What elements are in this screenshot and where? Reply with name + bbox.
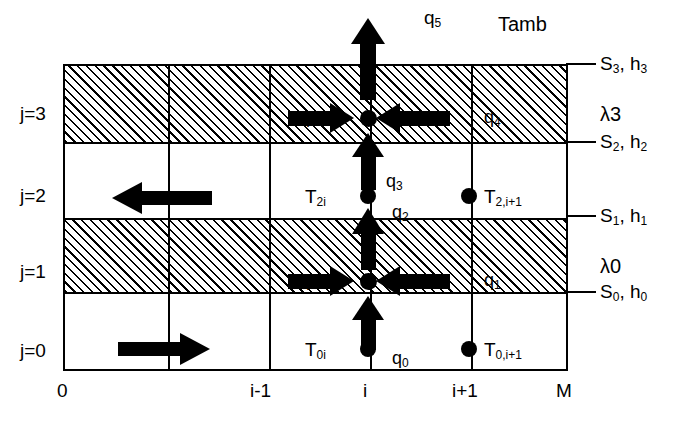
column-label-0: 0 xyxy=(57,381,68,400)
node-dot-upper xyxy=(360,110,377,127)
node-dot-lower xyxy=(360,273,377,290)
surface-label-s1: S1, h1 xyxy=(600,206,647,225)
temperature-label-t0ip1: T0,i+1 xyxy=(484,340,522,359)
column-label-ip1: i+1 xyxy=(452,381,478,400)
flux-label-q2: q2 xyxy=(392,203,409,221)
surface-label-s2: S2, h2 xyxy=(600,132,647,151)
conductivity-label-lambda0: λ0 xyxy=(600,256,621,276)
node-dot-t0i xyxy=(360,341,376,357)
column-label-i: i xyxy=(363,381,367,400)
column-label-im1: i-1 xyxy=(250,381,271,400)
row-label-j1: j=1 xyxy=(20,262,46,281)
leader-line-s1 xyxy=(566,215,596,217)
grid-line-col-ip1 xyxy=(471,66,473,369)
ambient-temperature-label: Tamb xyxy=(498,14,547,34)
flux-label-q4-right: q4 xyxy=(484,108,501,126)
flux-label-q1-right: q1 xyxy=(484,271,501,289)
surface-label-s3: S3, h3 xyxy=(600,54,647,73)
column-label-M: M xyxy=(556,381,572,400)
surface-label-s0: S0, h0 xyxy=(600,282,647,301)
grid-line-col-a xyxy=(168,66,170,369)
flux-label-q5: q5 xyxy=(424,8,441,27)
leader-line-s3 xyxy=(566,63,596,65)
temperature-label-t2ip1: T2,i+1 xyxy=(484,187,522,206)
node-dot-t2i xyxy=(360,188,376,204)
node-dot-t0ip1 xyxy=(461,341,477,357)
row-label-j3: j=3 xyxy=(20,104,46,123)
node-dot-t2ip1 xyxy=(461,188,477,204)
flux-label-q0: q0 xyxy=(392,349,409,367)
leader-line-s0 xyxy=(566,291,596,293)
row-label-j2: j=2 xyxy=(20,186,46,205)
row-label-j0: j=0 xyxy=(20,341,46,360)
temperature-label-t2i: T2i xyxy=(305,187,326,206)
grid-line-col-im1 xyxy=(269,66,271,369)
diagram-canvas: q5 Tamb j=3 j=2 j=1 j=0 S3, h3 λ3 S2, h2… xyxy=(0,0,688,441)
flux-label-q3: q3 xyxy=(386,172,403,190)
layer-lambda3-hatched xyxy=(65,64,566,144)
leader-line-s2 xyxy=(566,141,596,143)
flux-label-q4-left: q4 xyxy=(300,108,317,126)
flux-label-q1-left: q1 xyxy=(300,271,317,289)
temperature-label-t0i: T0i xyxy=(305,340,326,359)
conductivity-label-lambda3: λ3 xyxy=(600,104,621,124)
